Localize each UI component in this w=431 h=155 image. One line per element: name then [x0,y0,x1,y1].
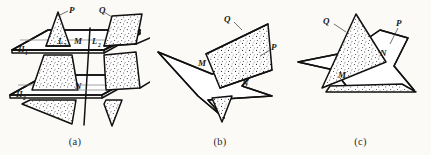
plane-q-upper-face [104,14,142,46]
plane-q-body [206,24,272,88]
plane-q-wing-lower [140,82,150,88]
label-plane-q: Q [224,14,231,24]
label-line-n: N [74,81,82,91]
label-plane-q: Q [323,16,330,26]
label-point-m: M [197,58,207,68]
panel-a-caption: (a) [0,136,150,147]
plane-q-middle-face [104,52,140,90]
plane-q-leader [334,24,346,32]
label-plane-p: P [271,42,277,52]
label-plane-h1-subscript: 1 [25,50,28,56]
plane-p-leader [58,11,68,16]
label-point-m: M [337,70,347,80]
label-line-l1: L [57,36,63,46]
label-plane-p: P [69,5,75,15]
plane-p-middle-face [32,55,78,90]
label-plane-p: P [396,18,402,28]
figure-root: P Q L 1 M L 2 N H 1 H 2 (a) [0,0,431,155]
plane-q-lower-tail [104,100,122,126]
label-line-l1-subscript: 1 [64,42,67,48]
panel-a: P Q L 1 M L 2 N H 1 H 2 (a) [0,0,150,155]
label-plane-h2: H [15,89,23,99]
plane-q-wing-upper [136,38,150,44]
panel-b-drawing: Q P M N [150,0,290,140]
label-point-n: N [241,78,249,88]
panel-c-drawing: Q P M N [290,0,431,140]
panel-a-drawing: P Q L 1 M L 2 N H 1 H 2 [0,0,150,140]
label-line-m: M [73,36,83,46]
plane-p-lower-tail [22,100,76,124]
label-plane-q: Q [99,5,106,15]
panel-c: Q P M N (c) [290,0,431,155]
panel-b: Q P M N (b) [150,0,290,155]
label-plane-h1: H [17,44,25,54]
panel-c-caption: (c) [290,136,431,147]
label-line-l2: L [91,36,97,46]
label-point-n: N [379,48,387,58]
label-line-l2-subscript: 2 [97,42,101,48]
plane-q-base-band [326,84,416,92]
label-plane-h2-subscript: 2 [22,95,26,101]
panel-b-caption: (b) [150,136,290,147]
plane-q-leader [234,22,242,30]
